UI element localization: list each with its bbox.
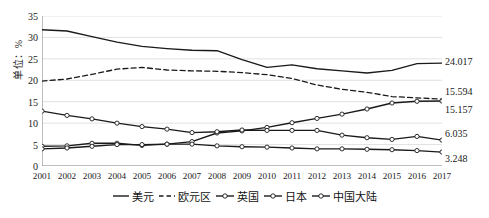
y-tick-label: 10 xyxy=(28,118,38,129)
y-tick-label: 25 xyxy=(28,53,38,64)
y-tick-label: 0 xyxy=(33,161,38,172)
legend-key-icon xyxy=(263,191,283,201)
y-axis-label: 单位：% xyxy=(10,25,25,95)
x-tick-label: 2009 xyxy=(233,171,251,181)
x-tick-label: 2016 xyxy=(408,171,426,181)
legend-item[interactable]: 日本 xyxy=(261,188,309,204)
x-tick-label: 2013 xyxy=(333,171,351,181)
x-tick-label: 2012 xyxy=(308,171,326,181)
chart-container: 单位：% 05101520253035 20012002200320042005… xyxy=(0,0,489,218)
legend-label: 日本 xyxy=(285,188,307,204)
x-tick-label: 2008 xyxy=(208,171,226,181)
y-tick-label: 15 xyxy=(28,96,38,107)
x-tick-label: 2001 xyxy=(33,171,51,181)
data-label: 15.594 xyxy=(445,86,473,97)
data-label: 15.157 xyxy=(445,104,473,115)
data-label: 6.035 xyxy=(445,128,468,139)
legend-item[interactable]: 美元 xyxy=(110,188,156,204)
x-tick-label: 2007 xyxy=(183,171,201,181)
legend-item[interactable]: 英国 xyxy=(213,188,261,204)
x-tick-label: 2002 xyxy=(58,171,76,181)
x-tick-label: 2015 xyxy=(383,171,401,181)
x-tick-label: 2017 xyxy=(433,171,451,181)
legend-key-icon xyxy=(158,191,176,201)
legend-key-icon xyxy=(215,191,235,201)
legend-label: 英国 xyxy=(237,188,259,204)
x-tick-label: 2006 xyxy=(158,171,176,181)
y-tick-label: 35 xyxy=(28,11,38,22)
x-tick-label: 2014 xyxy=(358,171,376,181)
legend-label: 欧元区 xyxy=(178,188,211,204)
legend-key-icon xyxy=(311,191,331,201)
legend-label: 中国大陆 xyxy=(333,188,377,204)
data-label: 3.248 xyxy=(445,153,468,164)
y-tick-label: 30 xyxy=(28,32,38,43)
legend-item[interactable]: 中国大陆 xyxy=(309,188,379,204)
x-tick-label: 2004 xyxy=(108,171,126,181)
data-label: 24.017 xyxy=(445,56,473,67)
x-tick-label: 2005 xyxy=(133,171,151,181)
y-tick-label: 20 xyxy=(28,75,38,86)
legend-label: 美元 xyxy=(132,188,154,204)
legend-item[interactable]: 欧元区 xyxy=(156,188,213,204)
x-tick-label: 2003 xyxy=(83,171,101,181)
x-tick-label: 2011 xyxy=(283,171,301,181)
y-tick-label: 5 xyxy=(33,139,38,150)
plot-svg xyxy=(42,16,442,166)
x-tick-label: 2010 xyxy=(258,171,276,181)
chart-legend: 美元欧元区英国日本中国大陆 xyxy=(0,188,489,204)
plot-area xyxy=(42,16,442,166)
legend-key-icon xyxy=(112,191,130,201)
